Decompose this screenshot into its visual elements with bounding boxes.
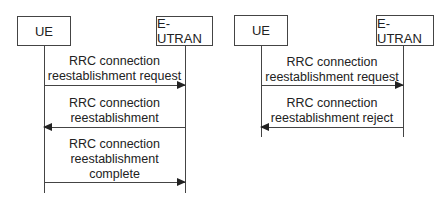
ue-label: UE xyxy=(35,24,53,39)
message-label: RRC connection reestablishment request xyxy=(44,54,185,84)
message-label: RRC connection reestablishment reject xyxy=(261,96,403,126)
ue-participant-box: UE xyxy=(17,16,71,46)
arrow-right xyxy=(44,182,185,183)
eutran-lifeline xyxy=(185,46,186,193)
eutran-label: E-UTRAN xyxy=(377,16,433,46)
arrow-right xyxy=(261,85,403,86)
arrow-right xyxy=(44,85,185,86)
message-label: RRC connection reestablishment xyxy=(44,96,185,126)
arrow-left xyxy=(44,127,185,128)
ue-participant-box: UE xyxy=(234,15,288,46)
eutran-label: E-UTRAN xyxy=(157,16,212,46)
ue-label: UE xyxy=(252,23,270,38)
message-label: RRC connection reestablishment request xyxy=(261,55,403,85)
arrow-left xyxy=(261,127,403,128)
eutran-participant-box: E-UTRAN xyxy=(156,16,213,46)
eutran-lifeline xyxy=(403,46,404,137)
message-label: RRC connection reestablishment complete xyxy=(44,137,185,182)
eutran-participant-box: E-UTRAN xyxy=(376,15,434,46)
